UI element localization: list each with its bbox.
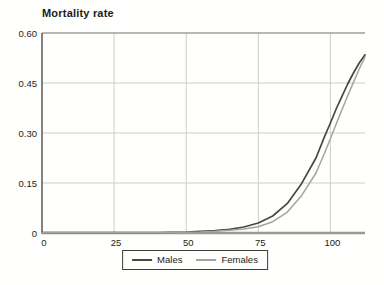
legend: Males Females (122, 250, 268, 270)
legend-item-females: Females (196, 254, 257, 265)
legend-label-males: Males (157, 254, 182, 265)
svg-text:75: 75 (255, 237, 266, 248)
svg-text:0.45: 0.45 (19, 78, 38, 89)
mortality-rate-chart: Mortality rate 00.150.300.450.6002550751… (0, 0, 384, 285)
females-line-swatch (196, 259, 216, 261)
plot-area: 00.150.300.450.600255075100 (0, 0, 384, 285)
svg-text:100: 100 (324, 237, 340, 248)
males-line-swatch (132, 259, 152, 261)
svg-text:0: 0 (32, 228, 37, 239)
legend-item-males: Males (132, 254, 182, 265)
svg-text:0.15: 0.15 (19, 178, 38, 189)
svg-text:0.60: 0.60 (19, 28, 38, 39)
svg-text:0: 0 (41, 237, 46, 248)
svg-text:25: 25 (111, 237, 122, 248)
legend-label-females: Females (221, 254, 257, 265)
svg-text:50: 50 (183, 237, 194, 248)
svg-text:0.30: 0.30 (19, 128, 38, 139)
